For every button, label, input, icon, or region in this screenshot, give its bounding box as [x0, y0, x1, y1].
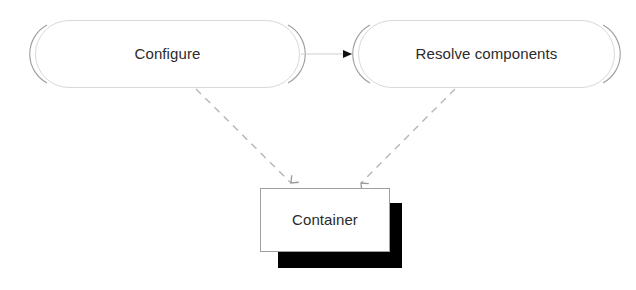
edge-resolve-to-container [361, 89, 455, 183]
diagram-canvas: Configure Resolve components Container [0, 0, 636, 290]
edge-configure-to-container [196, 89, 291, 183]
node-container-label: Container [260, 212, 390, 227]
diagram-graphics [0, 0, 636, 290]
node-configure-label: Configure [35, 46, 300, 61]
node-resolve-components-label: Resolve components [358, 46, 615, 61]
